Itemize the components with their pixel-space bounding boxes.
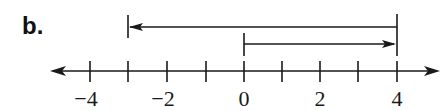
tick-label: 0: [239, 86, 250, 111]
tick-label: −4: [74, 86, 97, 111]
tick-label: 4: [392, 86, 403, 111]
number-line-axis: [50, 66, 440, 76]
axis-tick-labels: −4−2024: [74, 86, 402, 111]
tick-label: −2: [151, 86, 174, 111]
lower-vector: [244, 33, 396, 56]
upper-vector: [128, 14, 397, 56]
tick-label: 2: [315, 86, 326, 111]
number-line-diagram: −4−2024: [0, 0, 445, 111]
